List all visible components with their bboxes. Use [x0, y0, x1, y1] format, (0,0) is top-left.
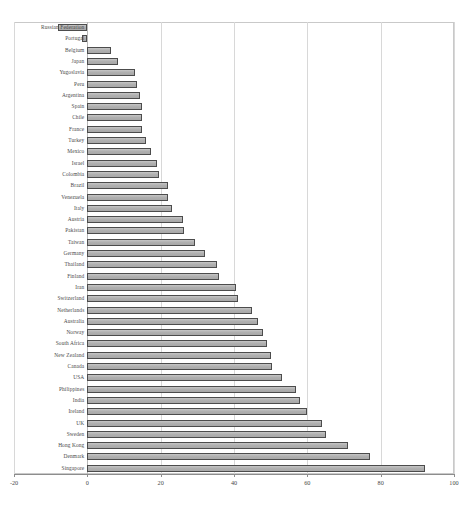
bar[interactable] — [87, 160, 157, 167]
bar-row: Colombia — [14, 169, 454, 180]
bar-row: Turkey — [14, 135, 454, 146]
bar-row: Yugoslavia — [14, 67, 454, 78]
bar[interactable] — [87, 126, 142, 133]
bar-row: Chile — [14, 112, 454, 123]
bar[interactable] — [87, 329, 263, 336]
bar-label: Israel — [72, 158, 85, 169]
bar[interactable] — [87, 465, 424, 472]
bar[interactable] — [87, 205, 171, 212]
bar-label: Italy — [74, 203, 84, 214]
bar[interactable] — [87, 420, 322, 427]
bar-row: Thailand — [14, 259, 454, 270]
bar[interactable] — [87, 453, 369, 460]
bar-row: Italy — [14, 203, 454, 214]
bar[interactable] — [87, 352, 270, 359]
bar[interactable] — [87, 318, 258, 325]
bar-row: Russian Federation — [14, 22, 454, 33]
bar[interactable] — [87, 47, 111, 54]
bar-label: Norway — [66, 327, 84, 338]
bar[interactable] — [87, 340, 267, 347]
bar[interactable] — [87, 295, 237, 302]
bar[interactable] — [87, 103, 142, 110]
bar-label: Chile — [72, 112, 84, 123]
bar[interactable] — [87, 194, 168, 201]
bar[interactable] — [87, 307, 252, 314]
bar[interactable] — [87, 137, 146, 144]
bar[interactable] — [87, 182, 168, 189]
bar-label: Pakistan — [65, 225, 84, 236]
bar-row: Singapore — [14, 463, 454, 474]
bar-label: Singapore — [62, 463, 85, 474]
bar-row: South Africa — [14, 338, 454, 349]
bar-label: Sweden — [67, 429, 85, 440]
bar-label: Colombia — [62, 169, 84, 180]
bar[interactable] — [87, 363, 272, 370]
bar-row: Israel — [14, 158, 454, 169]
bar-row: Australia — [14, 316, 454, 327]
bar-label: UK — [76, 418, 84, 429]
tick-mark-100 — [454, 474, 455, 477]
bar-row: Ireland — [14, 406, 454, 417]
bar[interactable] — [87, 216, 182, 223]
bar-row: India — [14, 395, 454, 406]
bar[interactable] — [87, 227, 184, 234]
bar-row: New Zealand — [14, 350, 454, 361]
bar[interactable] — [87, 239, 195, 246]
bar[interactable] — [87, 386, 296, 393]
bar-label: France — [69, 124, 84, 135]
bar[interactable] — [87, 171, 159, 178]
bar[interactable] — [87, 374, 281, 381]
chart-title — [0, 0, 468, 10]
bar-row: Venezuela — [14, 192, 454, 203]
tick-label-60: 60 — [292, 478, 322, 487]
bar[interactable] — [87, 81, 137, 88]
bar[interactable] — [87, 58, 118, 65]
bar[interactable] — [87, 442, 347, 449]
bar[interactable] — [87, 114, 142, 121]
bar[interactable] — [87, 284, 236, 291]
bar-row: Netherlands — [14, 305, 454, 316]
bar-row: Norway — [14, 327, 454, 338]
bar-row: Peru — [14, 79, 454, 90]
bar-label: Peru — [74, 79, 84, 90]
bar[interactable] — [87, 148, 151, 155]
bar[interactable] — [87, 261, 217, 268]
bar-row: UK — [14, 418, 454, 429]
bar-label: Germany — [64, 248, 85, 259]
tick-mark-80 — [381, 474, 382, 477]
gridline-100 — [454, 22, 455, 474]
bar-label: Argentina — [62, 90, 84, 101]
bar-label: Spain — [72, 101, 85, 112]
bar[interactable] — [87, 250, 204, 257]
bar-row: Japan — [14, 56, 454, 67]
tick-label-100: 100 — [439, 478, 468, 487]
bar[interactable] — [87, 397, 300, 404]
bar[interactable] — [87, 408, 307, 415]
bar-label: Portugal — [65, 33, 84, 44]
bar-label: Iran — [75, 282, 84, 293]
bar-label: Yugoslavia — [59, 67, 84, 78]
bar-label: Brazil — [71, 180, 85, 191]
bar-label: Denmark — [64, 451, 85, 462]
tick-mark-20 — [161, 474, 162, 477]
bar-label: Netherlands — [57, 305, 84, 316]
bar-rows: Russian FederationPortugalBelgiumJapanYu… — [14, 22, 454, 474]
bar-label: Austria — [68, 214, 85, 225]
bar-row: Germany — [14, 248, 454, 259]
bar-label: USA — [73, 372, 84, 383]
bar[interactable] — [87, 69, 135, 76]
bar-row: Iran — [14, 282, 454, 293]
bar-label: Hong Kong — [58, 440, 84, 451]
bar[interactable] — [87, 431, 325, 438]
bar-label: Philippines — [59, 384, 84, 395]
bar-label: India — [73, 395, 85, 406]
tick-mark-0 — [87, 474, 88, 477]
bar-row: Brazil — [14, 180, 454, 191]
bar-row: Argentina — [14, 90, 454, 101]
bar[interactable] — [87, 92, 140, 99]
bar[interactable] — [87, 273, 219, 280]
bar-label: Thailand — [64, 259, 84, 270]
bar-row: Hong Kong — [14, 440, 454, 451]
tick-label-20: 20 — [146, 478, 176, 487]
bar-label: Venezuela — [61, 192, 84, 203]
